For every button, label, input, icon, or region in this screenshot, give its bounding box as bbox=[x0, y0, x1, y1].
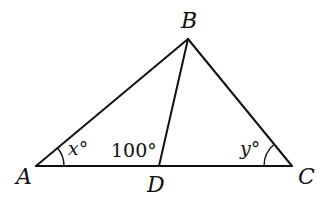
triangle-diagram: A B C D x° 100° y° bbox=[0, 0, 326, 203]
angle-arc-a bbox=[58, 148, 65, 166]
angle-label-y: y° bbox=[239, 137, 260, 159]
angle-arc-c bbox=[264, 144, 274, 166]
vertex-label-b: B bbox=[180, 8, 197, 33]
vertex-label-c: C bbox=[298, 164, 315, 189]
angle-label-x: x° bbox=[68, 137, 88, 159]
vertex-label-d: D bbox=[146, 172, 165, 197]
angle-label-100: 100° bbox=[111, 139, 157, 161]
vertex-label-a: A bbox=[14, 164, 32, 189]
segment-bd bbox=[159, 39, 188, 166]
